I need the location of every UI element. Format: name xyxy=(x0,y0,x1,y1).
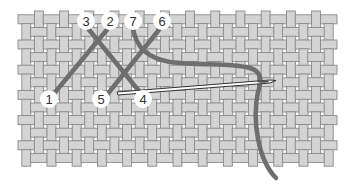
label-number: 2 xyxy=(106,14,113,29)
weft-thread xyxy=(144,116,161,125)
warp-thread xyxy=(223,150,232,167)
weft-thread xyxy=(43,40,60,49)
warp-thread xyxy=(47,49,56,66)
warp-thread xyxy=(299,99,308,116)
weft-thread xyxy=(207,53,224,62)
warp-thread xyxy=(236,112,245,129)
warp-thread xyxy=(72,99,81,116)
weft-thread xyxy=(207,128,224,137)
weft-thread xyxy=(283,103,300,112)
warp-thread xyxy=(110,137,119,154)
weft-thread xyxy=(43,116,60,125)
warp-thread xyxy=(22,99,31,116)
warp-thread xyxy=(236,137,245,154)
weft-thread xyxy=(169,40,186,49)
weft-thread xyxy=(308,103,325,112)
weft-thread xyxy=(207,103,224,112)
weft-thread xyxy=(270,40,287,49)
weft-thread xyxy=(68,40,85,49)
weft-thread xyxy=(220,116,237,125)
warp-thread xyxy=(72,74,81,91)
weft-thread xyxy=(220,40,237,49)
warp-thread xyxy=(286,87,295,104)
warp-thread xyxy=(148,74,157,91)
weft-thread xyxy=(81,128,98,137)
warp-thread xyxy=(47,24,56,41)
weft-thread xyxy=(18,15,35,24)
warp-thread xyxy=(236,36,245,53)
warp-thread xyxy=(299,74,308,91)
warp-thread xyxy=(60,112,69,129)
weft-thread xyxy=(81,78,98,87)
needle-eye xyxy=(257,80,269,83)
warp-thread xyxy=(186,36,195,53)
warp-thread xyxy=(85,137,94,154)
warp-thread xyxy=(324,74,333,91)
weft-thread xyxy=(207,153,224,162)
weft-thread xyxy=(308,153,325,162)
weft-thread xyxy=(56,153,73,162)
weft-thread xyxy=(18,40,35,49)
weft-thread xyxy=(56,27,73,36)
weft-thread xyxy=(182,27,199,36)
warp-thread xyxy=(123,99,132,116)
warp-thread xyxy=(148,124,157,141)
weft-thread xyxy=(182,128,199,137)
warp-thread xyxy=(60,87,69,104)
warp-thread xyxy=(60,137,69,154)
cross-stitch-diagram: 1234567 xyxy=(0,0,352,185)
weft-thread xyxy=(94,116,111,125)
warp-thread xyxy=(160,137,169,154)
warp-thread xyxy=(60,36,69,53)
label-number: 4 xyxy=(139,92,146,107)
weft-thread xyxy=(56,128,73,137)
weft-thread xyxy=(31,78,48,87)
warp-thread xyxy=(299,150,308,167)
weft-thread xyxy=(308,27,325,36)
warp-thread xyxy=(274,150,283,167)
warp-thread xyxy=(110,112,119,129)
weft-thread xyxy=(18,116,35,125)
warp-thread xyxy=(173,124,182,141)
warp-thread xyxy=(34,11,43,28)
weft-thread xyxy=(295,141,312,150)
weft-thread xyxy=(31,53,48,62)
weft-thread xyxy=(295,40,312,49)
warp-thread xyxy=(47,74,56,91)
warp-thread xyxy=(261,61,270,78)
warp-thread xyxy=(22,124,31,141)
weft-thread xyxy=(194,15,211,24)
warp-thread xyxy=(34,112,43,129)
warp-thread xyxy=(123,150,132,167)
warp-thread xyxy=(299,24,308,41)
weft-thread xyxy=(270,116,287,125)
weft-thread xyxy=(283,153,300,162)
weft-thread xyxy=(157,103,174,112)
weft-thread xyxy=(270,141,287,150)
weft-thread xyxy=(283,53,300,62)
step-label-7: 7 xyxy=(124,12,142,30)
warp-thread xyxy=(34,61,43,78)
weft-thread xyxy=(308,78,325,87)
warp-thread xyxy=(160,36,169,53)
warp-thread xyxy=(85,112,94,129)
weft-thread xyxy=(182,153,199,162)
weft-thread xyxy=(295,15,312,24)
weft-thread xyxy=(295,90,312,99)
warp-thread xyxy=(47,124,56,141)
weft-thread xyxy=(157,128,174,137)
weft-thread xyxy=(232,128,249,137)
weft-thread xyxy=(144,65,161,74)
weft-thread xyxy=(169,15,186,24)
weft-thread xyxy=(194,65,211,74)
warp-thread xyxy=(286,61,295,78)
warp-thread xyxy=(47,150,56,167)
step-label-6: 6 xyxy=(153,12,171,30)
weft-thread xyxy=(106,128,123,137)
weft-thread xyxy=(194,90,211,99)
label-number: 5 xyxy=(97,92,104,107)
warp-thread xyxy=(34,137,43,154)
weft-thread xyxy=(308,53,325,62)
warp-thread xyxy=(312,87,321,104)
warp-thread xyxy=(22,49,31,66)
